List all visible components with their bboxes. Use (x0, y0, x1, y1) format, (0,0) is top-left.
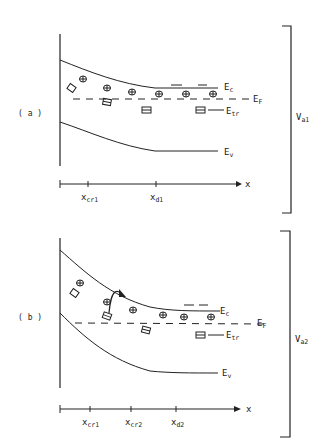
ef-label: EF (253, 94, 262, 106)
trap-icon (102, 312, 112, 320)
trap-icon (142, 107, 151, 113)
trap-icon-empty (67, 84, 76, 93)
trap-icon (141, 326, 150, 334)
band-diagram: Ec EF Etr Ev ( a ) Va1 x xcr1 xd1 (0, 0, 334, 448)
electron-icon (210, 91, 217, 97)
electron-icon (156, 91, 163, 97)
panel-label-b: ( b ) (18, 313, 42, 322)
trap-icon (196, 332, 205, 338)
axis-label-x: x (246, 404, 252, 414)
fermi-level-line (75, 323, 268, 324)
electron-icon (104, 85, 111, 91)
voltage-bracket (280, 231, 290, 437)
trap-icon (103, 98, 112, 105)
trap-icon (196, 107, 205, 113)
voltage-label-a: Va1 (296, 112, 309, 124)
voltage-label-b: Va2 (295, 334, 308, 346)
panel-a: Ec EF Etr Ev ( a ) Va1 x xcr1 xd1 (18, 26, 309, 213)
voltage-bracket (282, 26, 291, 213)
valence-band-curve (60, 122, 218, 151)
electron-icon (181, 314, 188, 320)
tick-label-xcr1: xcr1 (81, 192, 98, 204)
ec-label: Ec (224, 82, 233, 94)
axis-arrow-icon (236, 181, 242, 187)
tick-label-xcr1: xcr1 (82, 417, 99, 429)
electron-icon (130, 307, 137, 313)
electron-icon (80, 76, 87, 82)
ev-label: Ev (224, 147, 233, 159)
emission-arrowhead-icon (119, 289, 126, 297)
electrons (80, 76, 217, 97)
etr-label: Etr (226, 330, 239, 342)
axis-arrow-icon (234, 406, 241, 412)
ef-label: EF (257, 318, 266, 330)
conduction-band-curve (60, 60, 218, 88)
tick-label-xd2: xd2 (171, 417, 184, 429)
electron-icon (104, 299, 111, 305)
ev-label: Ev (222, 368, 231, 380)
axis-label-x: x (245, 179, 251, 189)
tick-label-xcr2: xcr2 (125, 417, 142, 429)
electron-icon (183, 91, 190, 97)
tick-label-xd1: xd1 (150, 192, 163, 204)
electron-icon (129, 89, 136, 95)
ec-label: Ec (220, 306, 229, 318)
electron-icon (208, 314, 215, 320)
electron-icon (160, 312, 167, 318)
panel-b: Ec EF Etr Ev ( b ) Va2 x xcr1 xcr2 xd2 (18, 231, 308, 437)
panel-label-a: ( a ) (18, 109, 42, 118)
traps (70, 289, 205, 338)
etr-label: Etr (226, 106, 239, 118)
electron-icon (77, 280, 84, 286)
conduction-band-curve (60, 250, 220, 311)
valence-band-curve (60, 313, 218, 373)
trap-icon-empty (70, 289, 79, 298)
electrons (77, 280, 215, 320)
